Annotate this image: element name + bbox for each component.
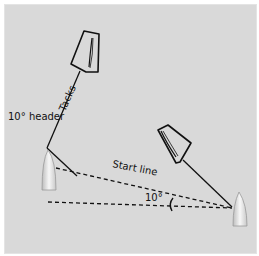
sailing-start-diagram: Tacks 10° header Start line 10° (0, 0, 259, 256)
sail-upper-left-icon (71, 31, 99, 72)
square-line (48, 202, 232, 208)
sail-right-icon (158, 125, 191, 163)
header-label: 10° header (8, 111, 65, 122)
hull-right-icon (233, 192, 247, 226)
course-line-right (183, 160, 232, 207)
start-line-label: Start line (112, 158, 159, 178)
angle-arc (170, 198, 173, 211)
hull-left-icon (42, 150, 56, 190)
tacks-label: Tacks (56, 84, 77, 114)
angle-label: 10° (145, 192, 163, 203)
